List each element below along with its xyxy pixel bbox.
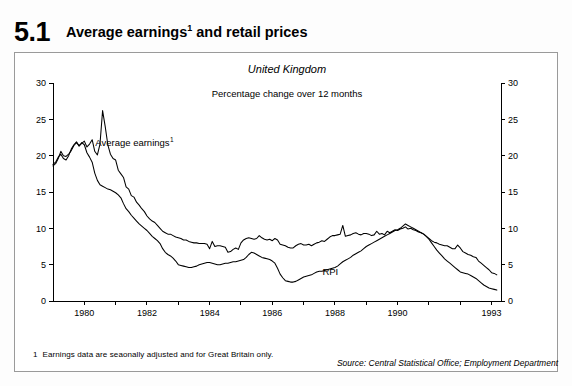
y-tick-label-left: 30	[36, 78, 46, 88]
x-tick-label: 1988	[325, 308, 345, 318]
chart-panel: United Kingdom Percentage change over 12…	[14, 52, 558, 372]
x-tick-label: 1980	[74, 308, 94, 318]
figure-page: 5.1 Average earnings1 and retail prices …	[0, 0, 572, 386]
y-tick-label-right: 25	[508, 115, 518, 125]
x-tick-label: 1986	[262, 308, 282, 318]
y-tick-label-left: 20	[36, 151, 46, 161]
x-tick-label: 1990	[388, 308, 408, 318]
y-tick-label-left: 15	[36, 187, 46, 197]
annotation-average-earnings-footnote-marker: 1	[170, 136, 174, 143]
y-tick-label-right: 30	[508, 78, 518, 88]
source-note: Source: Central Statistical Office; Empl…	[337, 358, 558, 368]
y-tick-label-left: 5	[41, 260, 46, 270]
figure-header: 5.1 Average earnings1 and retail prices	[14, 14, 560, 50]
annotation-rpi: RPI	[322, 266, 338, 277]
series-rpi	[53, 142, 497, 290]
y-tick-label-right: 15	[508, 187, 518, 197]
figure-number: 5.1	[14, 19, 50, 46]
footnote-text: Earnings data are seaonally adjusted and…	[43, 350, 274, 359]
x-tick-label: 1984	[200, 308, 220, 318]
footnote-marker: 1	[33, 350, 38, 359]
y-tick-label-right: 5	[508, 260, 513, 270]
annotation-average-earnings: Average earnings	[95, 137, 170, 148]
x-tick-label: 1982	[137, 308, 157, 318]
page-title: Average earnings1 and retail prices	[66, 25, 307, 40]
y-tick-label-right: 10	[508, 224, 518, 234]
y-tick-label-left: 10	[36, 224, 46, 234]
figure-title-rest: and retail prices	[192, 24, 307, 40]
y-tick-label-left: 25	[36, 115, 46, 125]
x-tick-label: 1993	[482, 308, 502, 318]
figure-title-main: Average earnings	[66, 24, 187, 40]
y-tick-label-right: 0	[508, 296, 513, 306]
plot-area: 0055101015152020252530301980198219841986…	[15, 53, 559, 373]
footnote: 1Earnings data are seaonally adjusted an…	[33, 350, 273, 359]
line-chart: 0055101015152020252530301980198219841986…	[15, 53, 559, 373]
series-average-earnings	[53, 111, 497, 275]
y-tick-label-right: 20	[508, 151, 518, 161]
y-tick-label-left: 0	[41, 296, 46, 306]
